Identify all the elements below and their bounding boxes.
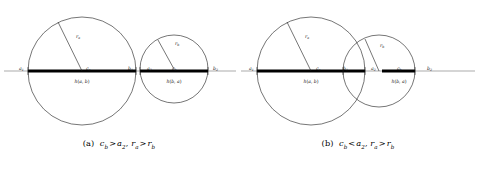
panel-a-drawing: a1 ca b1 a2 cb b2 ra rb h(a, b) h(b, a) — [0, 0, 238, 138]
figure-root: a1 ca b1 a2 cb b2 ra rb h(a, b) h(b, a) … — [0, 0, 477, 172]
caption-panel-a: (a) cb>a2, ra>rb — [0, 138, 238, 150]
figure-panel-b: a1 ca b1 a2 cb b2 ra rb h(a, b) h(b, a) … — [239, 0, 477, 172]
label-h-b-a: h(b, a) — [167, 79, 182, 84]
label-rb: rb — [380, 43, 384, 49]
caption-expr2-rhs-sub-b: b — [391, 144, 395, 150]
label-a1: a1 — [249, 66, 254, 72]
figure-panel-a: a1 ca b1 a2 cb b2 ra rb h(a, b) h(b, a) … — [0, 0, 238, 172]
caption-expr1-rel-b: < — [347, 138, 356, 148]
label-b2: b2 — [213, 66, 218, 72]
label-a2: a2 — [371, 66, 376, 72]
radius-line-ra — [287, 22, 311, 71]
caption-expr2-rhs-sub-a: b — [152, 144, 156, 150]
label-b2: b2 — [427, 66, 432, 72]
label-ra: ra — [305, 34, 309, 40]
panel-b-drawing: a1 ca b1 a2 cb b2 ra rb h(a, b) h(b, a) — [239, 0, 477, 138]
caption-tag-b: (b) — [322, 138, 334, 148]
label-rb: rb — [175, 41, 179, 47]
label-a1: a1 — [19, 66, 24, 72]
radius-line-ra — [58, 22, 82, 71]
label-h-b-a: h(b, a) — [392, 79, 407, 84]
caption-expr1-rel-a: > — [108, 138, 117, 148]
label-ra: ra — [76, 34, 80, 40]
label-h-a-b: h(a, b) — [304, 79, 319, 84]
caption-tag-a: (a) — [83, 138, 95, 148]
caption-expr2-rel-a: > — [139, 138, 148, 148]
label-h-a-b: h(a, b) — [75, 79, 90, 84]
caption-panel-b: (b) cb<a2, ra>rb — [239, 138, 477, 150]
caption-expr2-rel-b: > — [378, 138, 387, 148]
radius-line-rb — [158, 40, 174, 69]
